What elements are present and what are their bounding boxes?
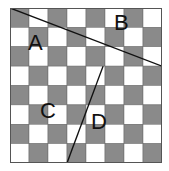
grid-cell [48,124,67,143]
grid-cell [86,8,105,27]
grid-cell [124,86,143,105]
checkerboard-diagram: A B C D [10,8,162,163]
grid-cell [48,144,67,163]
grid-cell [48,66,67,85]
grid-cell [105,86,124,105]
grid-cell [10,105,29,124]
grid-cell [143,66,162,85]
grid-cell [10,86,29,105]
grid-cell [10,66,29,85]
grid-cell [124,66,143,85]
grid-cell [124,124,143,143]
grid-cell [143,105,162,124]
grid-cell [143,124,162,143]
grid-cell [86,47,105,66]
grid-cell [10,144,29,163]
grid-cell [143,144,162,163]
grid-cell [124,105,143,124]
grid-cell [67,124,86,143]
grid-cell [29,8,48,27]
grid-cell [48,8,67,27]
grid-cell [10,27,29,46]
grid-cell [67,144,86,163]
grid-cell [143,86,162,105]
region-label-b: B [114,10,129,35]
region-label-d: D [91,109,107,134]
grid-cell [86,144,105,163]
grid-cell [124,47,143,66]
grid-cell [105,105,124,124]
grid-cell [67,8,86,27]
region-label-a: A [28,30,43,55]
grid-cell [67,47,86,66]
grid-cell [67,66,86,85]
grid-cell [10,47,29,66]
grid-cell [105,144,124,163]
grid-cell [67,86,86,105]
grid-cell [48,47,67,66]
grid-cell [48,27,67,46]
grid-cell [29,66,48,85]
grid-cell [10,124,29,143]
grid-cell [143,8,162,27]
grid-cell [105,47,124,66]
grid-cell [124,144,143,163]
grid-cell [105,66,124,85]
region-label-c: C [40,98,56,123]
checkerboard-svg: A B C D [10,8,162,163]
grid-cell [29,144,48,163]
grid-cell [143,27,162,46]
grid-cell [29,124,48,143]
grid-cell [105,124,124,143]
